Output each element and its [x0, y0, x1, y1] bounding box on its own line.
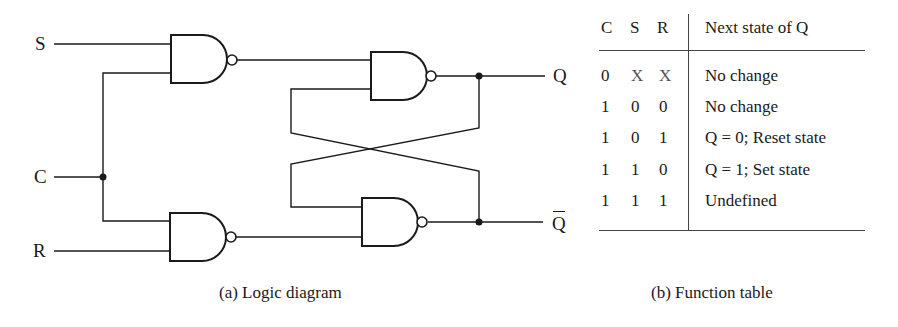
header-divider: [599, 50, 865, 51]
row-4-c: 1: [601, 192, 610, 209]
nand-bubble-2: [226, 232, 236, 242]
header-c: C: [601, 19, 612, 36]
junction-c: [100, 174, 107, 181]
row-2-c: 1: [601, 129, 610, 146]
row-2-next: Q = 0; Reset state: [705, 129, 826, 146]
row-4-next: Undefined: [705, 192, 777, 209]
input-label-c: C: [34, 167, 47, 186]
wire-c-branch: [103, 73, 171, 221]
row-3-r: 0: [659, 161, 668, 178]
q-bar-text: Q: [552, 213, 566, 234]
row-4-s: 1: [631, 192, 640, 209]
row-0-s: X: [631, 67, 643, 84]
row-3-c: 1: [601, 161, 610, 178]
row-1-s: 0: [631, 98, 640, 115]
row-0-r: X: [659, 67, 671, 84]
table-caption: (b) Function table: [651, 284, 773, 301]
nand-gate-1: [171, 35, 227, 83]
row-1-c: 1: [601, 98, 610, 115]
junction-q: [476, 73, 483, 80]
diagram-caption: (a) Logic diagram: [219, 284, 342, 301]
overline: [553, 211, 565, 212]
nand-gate-2: [170, 213, 226, 261]
row-1-next: No change: [705, 98, 778, 115]
nand-gate-4: [362, 198, 418, 246]
row-3-next: Q = 1; Set state: [705, 161, 810, 178]
table-bottom-rule: [599, 230, 865, 231]
row-0-next: No change: [705, 67, 778, 84]
nand-gate-3: [371, 52, 427, 100]
header-r: R: [657, 19, 668, 36]
row-3-s: 1: [631, 161, 640, 178]
header-s: S: [630, 19, 639, 36]
header-next-state: Next state of Q: [705, 19, 808, 36]
output-label-q-bar: Q: [552, 214, 566, 233]
row-2-r: 1: [659, 129, 668, 146]
junction-qbar: [476, 219, 483, 226]
input-label-r: R: [33, 241, 46, 260]
row-0-c: 0: [601, 67, 610, 84]
nand-bubble-1: [227, 55, 237, 65]
nand-bubble-4: [417, 217, 427, 227]
input-label-s: S: [35, 34, 46, 53]
nand-bubble-3: [426, 71, 436, 81]
column-divider: [688, 14, 689, 231]
row-2-s: 0: [631, 129, 640, 146]
row-4-r: 1: [659, 192, 668, 209]
row-1-r: 0: [659, 98, 668, 115]
output-label-q: Q: [553, 66, 567, 85]
